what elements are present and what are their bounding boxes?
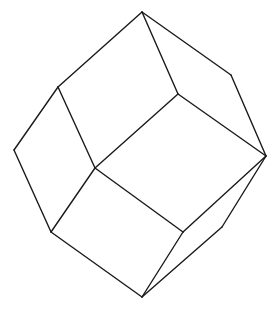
edge-left_upper-mid_junction: [58, 87, 95, 168]
edge-mid_junction-lower_left: [51, 168, 95, 232]
edge-top-left_upper: [58, 12, 142, 87]
polyhedron-drawing: [0, 0, 277, 313]
edge-mid_junction-lower_center: [95, 168, 183, 232]
edge-lower_center-bottom: [142, 232, 183, 297]
edge-left-lower_left: [14, 150, 51, 232]
edge-lower_left-bottom: [51, 232, 142, 297]
rhombic-dodecahedron-figure: [0, 0, 277, 313]
edge-right_tip-right_lower: [222, 156, 266, 227]
edge-inner_center-mid_junction: [95, 94, 178, 168]
edge-right_lower-bottom: [142, 227, 222, 297]
edge-lower_center-right_tip: [183, 156, 266, 232]
edge-left_upper-left: [14, 87, 58, 150]
